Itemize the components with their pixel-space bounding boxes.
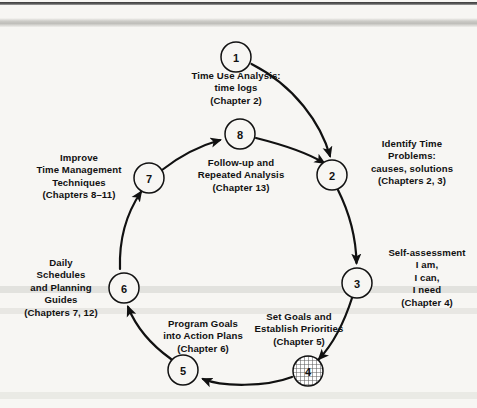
node-1-number: 1 [233, 52, 239, 64]
node-2-label: Identify Time Problems: causes, solution… [352, 138, 472, 188]
node-2[interactable]: 2 [317, 160, 347, 190]
node-4-number: 4 [305, 366, 312, 378]
node-7-number: 7 [146, 173, 152, 185]
node-5-number: 5 [180, 365, 186, 377]
node-2-number: 2 [329, 170, 335, 182]
node-6[interactable]: 6 [109, 273, 139, 303]
arrow-4-to-5 [203, 377, 292, 385]
arrow-6-to-7 [120, 192, 141, 269]
node-1-label: Time Use Analysis: time logs (Chapter 2) [162, 70, 310, 107]
arrow-2-to-3 [338, 190, 357, 263]
node-7-label: Improve Time Management Techniques (Chap… [20, 152, 138, 202]
node-4[interactable]: 4 [293, 356, 323, 386]
node-8-number: 8 [237, 129, 243, 141]
node-7[interactable]: 7 [134, 163, 164, 193]
node-3-number: 3 [354, 278, 360, 290]
node-6-label: Daily Schedules and Planning Guides (Cha… [12, 257, 110, 319]
node-8-label: Follow-up and Repeated Analysis (Chapter… [180, 157, 302, 194]
node-1[interactable]: 1 [221, 42, 251, 72]
node-3-label: Self-assessment I am, I can, I need (Cha… [377, 247, 477, 309]
diagram-page: 1 2 3 4 5 6 7 [0, 0, 477, 408]
node-5-label: Program Goals into Action Plans (Chapter… [141, 318, 265, 355]
node-3[interactable]: 3 [342, 268, 372, 298]
node-8[interactable]: 8 [225, 119, 255, 149]
node-5[interactable]: 5 [168, 355, 198, 385]
node-6-number: 6 [121, 283, 127, 295]
